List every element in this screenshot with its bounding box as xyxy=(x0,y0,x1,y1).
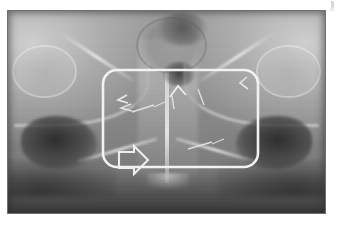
tick-mark-left-short xyxy=(154,101,167,107)
chevron-down-left-right-icon xyxy=(240,77,248,89)
tick-mark-center-vertical xyxy=(172,96,174,109)
tick-mark-left-oblique xyxy=(132,105,154,112)
annotation-overlay xyxy=(8,11,326,214)
tick-mark-lower-right-short xyxy=(212,139,224,144)
chevron-left-lower-icon xyxy=(121,104,132,111)
chevron-up-left-center-icon xyxy=(170,86,186,97)
tick-mark-center-right xyxy=(198,89,204,105)
tick-mark-lower-right xyxy=(188,142,212,149)
chevron-left-upper-icon xyxy=(118,95,128,103)
corner-speck xyxy=(331,1,334,8)
page-canvas xyxy=(0,0,340,225)
corner-speck-secondary xyxy=(330,8,334,11)
pelvis-ap-radiograph xyxy=(7,10,326,214)
block-arrow-marker xyxy=(119,146,148,174)
